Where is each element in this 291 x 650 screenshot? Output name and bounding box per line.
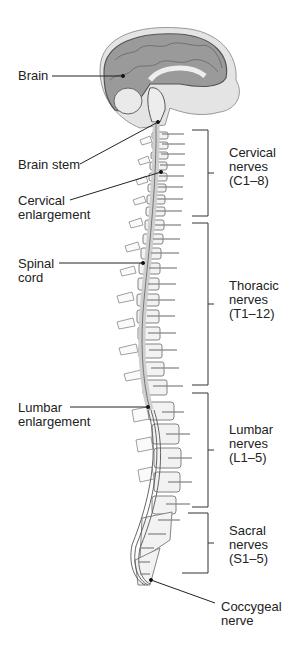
label-spinal-cord: Spinal cord bbox=[18, 257, 54, 285]
label-brain-stem: Brain stem bbox=[18, 158, 80, 172]
label-thoracic-nerves: Thoracic nerves (T1–12) bbox=[229, 279, 279, 321]
label-cervical-nerves: Cervical nerves (C1–8) bbox=[229, 146, 276, 188]
label-lumbar-enlargement: Lumbar enlargement bbox=[18, 401, 90, 429]
label-brain: Brain bbox=[18, 69, 48, 83]
label-coccygeal-nerve: Coccygeal nerve bbox=[221, 600, 282, 628]
label-sacral-nerves: Sacral nerves (S1–5) bbox=[229, 524, 268, 566]
label-lumbar-nerves: Lumbar nerves (L1–5) bbox=[229, 423, 273, 465]
label-cervical-enlargement: Cervical enlargement bbox=[18, 194, 90, 222]
